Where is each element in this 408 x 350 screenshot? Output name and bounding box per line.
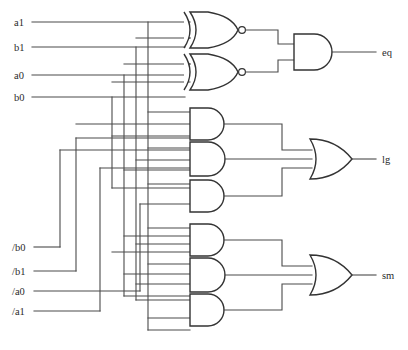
and-sm2-input-wires [124, 264, 190, 284]
sm-interconnect-wires [224, 240, 312, 310]
circuit-canvas: a1 b1 a0 b0 /b0 /b1 /a0 /a1 eq lg sm [0, 0, 408, 350]
and-lg2-body [190, 142, 225, 176]
input-label-a1: a1 [14, 17, 24, 28]
eq-interconnect-wires [246, 30, 295, 72]
input-wires [32, 22, 185, 311]
and-lg3-body [190, 180, 224, 212]
and-gate-sm1 [190, 224, 224, 256]
input-label-a0: a0 [14, 70, 24, 81]
and-gate-sm2 [190, 258, 225, 292]
or-lg-body [310, 139, 352, 179]
and-gate-lg1 [190, 108, 224, 140]
xnor-gate-high-bits [184, 12, 245, 48]
and-sm3-body [190, 294, 224, 326]
and-sm1-body [190, 224, 224, 256]
input-label-b1: b1 [14, 42, 25, 53]
output-label-eq: eq [382, 47, 393, 58]
input-labels: a1 b1 a0 b0 /b0 /b1 /a0 /a1 [12, 17, 25, 317]
wire-sm3-to-or [224, 284, 312, 310]
wire-lg3-to-or [224, 168, 312, 196]
output-label-lg: lg [382, 154, 391, 165]
or-gate-sm [310, 255, 376, 295]
xnor2-extra-curve [184, 54, 190, 90]
wire-xnor2-to-and [246, 60, 295, 72]
and-gate-lg2 [190, 142, 225, 176]
circuit-diagram: a1 b1 a0 b0 /b0 /b1 /a0 /a1 eq lg sm [0, 0, 408, 350]
input-label-nb0: /b0 [12, 242, 25, 253]
or-gate-lg [310, 139, 376, 179]
wire-xnor1-to-and [246, 30, 295, 44]
and-lg1-input-wires [76, 112, 190, 138]
and-sm2-body [190, 258, 225, 292]
input-label-na0: /a0 [12, 286, 25, 297]
xnor2-bubble [239, 69, 246, 76]
output-label-sm: sm [382, 270, 394, 281]
and-gate-sm3 [190, 294, 224, 326]
and-lg1-body [190, 108, 224, 140]
and-lg2-input-wires [60, 148, 190, 170]
and-sm3-input-wires [124, 296, 190, 330]
input-label-b0: b0 [14, 92, 25, 103]
xnor2-body [190, 54, 238, 90]
xnor1-body [190, 12, 238, 48]
xnor1-bubble [239, 27, 246, 34]
output-labels: eq lg sm [382, 47, 394, 281]
xnor-gate-low-bits [184, 54, 245, 90]
lg-interconnect-wires [224, 124, 312, 196]
wire-sm1-to-or [224, 240, 312, 266]
xnor1-extra-curve [184, 12, 190, 48]
and-gate-lg3 [190, 180, 224, 212]
and-eq-body [294, 34, 332, 70]
or-sm-body [310, 255, 352, 295]
input-label-nb1: /b1 [12, 266, 25, 277]
and-gate-eq [294, 34, 376, 70]
vertical-bus-wires [60, 22, 148, 330]
wire-lg1-to-or [224, 124, 312, 150]
xnor1-input-wires [136, 22, 190, 38]
input-label-na1: /a1 [12, 306, 25, 317]
